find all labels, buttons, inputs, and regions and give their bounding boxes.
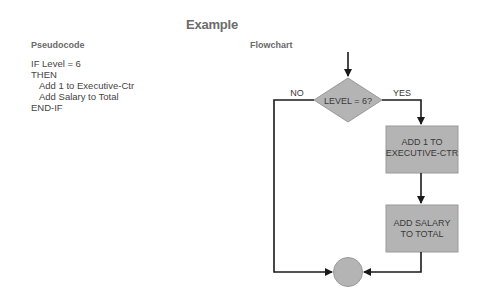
no-branch-line (274, 100, 332, 272)
decision-text: LEVEL = 6? (324, 96, 372, 106)
yes-branch-line (382, 100, 421, 124)
process2-line2: TO TOTAL (401, 229, 444, 239)
yes-label: YES (393, 88, 411, 98)
process2-line1: ADD SALARY (394, 218, 451, 228)
process1-line1: ADD 1 TO (401, 137, 442, 147)
flowchart: LEVEL = 6? NO YES ADD 1 TO EXECUTIVE-CTR… (0, 0, 484, 302)
no-label: NO (290, 88, 304, 98)
process1-line2: EXECUTIVE-CTR (386, 148, 459, 158)
return-line (364, 252, 421, 272)
merge-connector-circle (334, 258, 363, 287)
